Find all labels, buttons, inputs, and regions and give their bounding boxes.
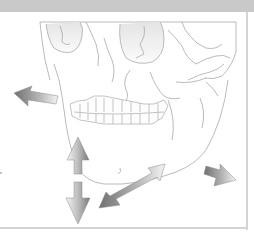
protrusion-arrow-icon bbox=[204, 164, 236, 186]
mandible bbox=[66, 80, 228, 184]
teeth bbox=[70, 96, 168, 124]
retrusion-arrow-icon bbox=[14, 86, 58, 106]
skull-illustration bbox=[0, 0, 254, 232]
lateral-excursion-arrow-icon bbox=[99, 164, 165, 208]
edge-mark bbox=[0, 172, 2, 174]
opening-closing-arrow-icon bbox=[66, 137, 90, 224]
